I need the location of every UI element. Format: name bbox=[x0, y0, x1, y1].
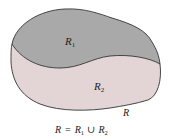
caption: R=R1∪R2 bbox=[54, 124, 108, 136]
label-r-outer: R bbox=[122, 107, 129, 118]
region-diagram: R1 R2 R R=R1∪R2 bbox=[0, 0, 169, 140]
